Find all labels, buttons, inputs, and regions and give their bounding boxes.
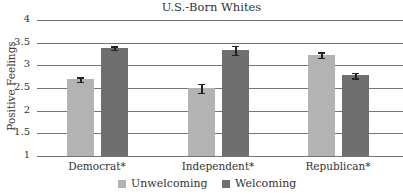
gridline: [37, 43, 403, 44]
gridline: [37, 65, 403, 66]
gridline: [37, 156, 403, 157]
bar-welcoming-1: [222, 50, 249, 156]
error-bar-cap: [232, 46, 239, 48]
x-tick-label: Independent*: [158, 160, 278, 172]
bar-unwelcoming-1: [188, 88, 215, 156]
bar-welcoming-2: [342, 75, 369, 156]
error-bar-cap: [77, 82, 84, 84]
error-bar-cap: [77, 77, 84, 79]
error-bar-cap: [232, 55, 239, 57]
error-bar-cap: [352, 73, 359, 75]
gridline: [37, 20, 403, 21]
y-tick-label: 3: [0, 58, 30, 69]
y-tick-label: 2.5: [0, 81, 30, 92]
x-tick-label: Republican*: [278, 160, 398, 172]
legend-item-unwelcoming: Unwelcoming: [118, 177, 208, 190]
bar-unwelcoming-2: [308, 55, 335, 156]
y-tick-label: 1: [0, 149, 30, 160]
legend-label-unwelcoming: Unwelcoming: [131, 177, 208, 190]
error-bar-cap: [352, 78, 359, 80]
legend-swatch-unwelcoming: [118, 180, 126, 188]
x-tick-label: Democrat*: [37, 160, 157, 172]
error-bar-cap: [111, 50, 118, 52]
y-tick-label: 1.5: [0, 126, 30, 137]
error-bar-cap: [198, 84, 205, 86]
y-tick-label: 2: [0, 104, 30, 115]
error-bar-cap: [198, 93, 205, 95]
legend-label-welcoming: Welcoming: [235, 177, 296, 190]
bar-unwelcoming-0: [67, 79, 94, 156]
error-bar-cap: [318, 58, 325, 60]
error-bar-cap: [111, 46, 118, 48]
error-bar-cap: [318, 52, 325, 54]
legend-item-welcoming: Welcoming: [222, 177, 296, 190]
chart-title: U.S.-Born Whites: [0, 0, 403, 14]
legend-swatch-welcoming: [222, 180, 230, 188]
y-tick-label: 3.5: [0, 36, 30, 47]
bar-welcoming-0: [101, 48, 128, 156]
y-tick-label: 4: [0, 13, 30, 24]
